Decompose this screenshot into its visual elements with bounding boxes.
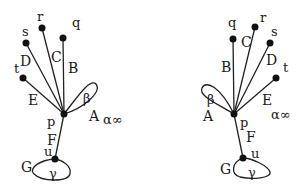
label-u: u [251,146,259,161]
label-alpha-inf: α∞ [271,107,291,122]
label-beta: β [207,92,215,107]
label-B: B [68,60,78,76]
edge-q [63,38,64,114]
label-r: r [37,9,44,24]
vertex-r [39,25,46,32]
vertex-s [267,40,274,47]
label-gamma: γ [49,166,57,181]
graph-diagrams: r q s t C B D E β A α∞ p F u G γ q r s t… [0,0,307,194]
label-s: s [271,24,278,39]
edge-r [42,28,64,114]
label-r: r [260,10,267,25]
label-alpha-inf: α∞ [103,112,123,127]
vertex-t [273,75,280,82]
label-B: B [221,59,231,75]
label-u: u [44,144,52,159]
vertex-q [60,35,67,42]
vertex-s [23,40,30,47]
label-p: p [47,114,55,129]
label-gamma: γ [248,165,256,180]
label-D: D [20,53,31,69]
label-F: F [246,129,256,145]
vertex-p [61,111,68,118]
edge-q [233,39,234,114]
label-s: s [22,24,29,39]
label-C: C [51,49,62,65]
vertex-u [240,155,247,162]
label-E: E [28,92,38,108]
label-A: A [88,108,100,124]
vertex-q [230,36,237,43]
vertex-u [52,156,59,163]
label-A: A [202,108,214,124]
label-q: q [228,15,236,30]
label-G: G [220,161,231,177]
label-p: p [240,115,248,130]
label-beta: β [83,91,91,106]
label-q: q [72,15,80,30]
vertex-r [252,24,259,31]
label-E: E [262,92,272,108]
label-D: D [266,52,277,68]
label-C: C [241,34,252,50]
label-t: t [283,60,289,75]
left-graph: r q s t C B D E β A α∞ p F u G γ [14,9,123,181]
right-graph: q r s t C B D E β A α∞ p F u G γ [201,10,290,180]
vertex-p [231,111,238,118]
label-G: G [21,159,32,175]
vertex-t [20,75,27,82]
